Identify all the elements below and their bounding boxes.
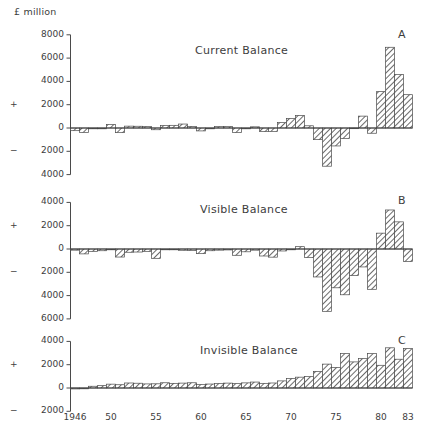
y-tick-label: 4000	[22, 196, 64, 206]
bar	[377, 233, 386, 249]
bar	[179, 124, 188, 128]
y-tick-label: 0	[22, 122, 64, 132]
bar	[350, 362, 359, 388]
bar	[125, 383, 134, 388]
bar	[242, 383, 251, 388]
panel-a-plot	[0, 0, 428, 200]
bar	[296, 115, 305, 128]
bar	[107, 384, 116, 388]
bar	[188, 383, 197, 388]
x-tick-label: 55	[136, 412, 176, 422]
y-tick-label: 6000	[22, 52, 64, 62]
y-tick-label: 4000	[22, 169, 64, 179]
bar	[170, 383, 179, 388]
bar	[395, 222, 404, 249]
x-tick-label: 60	[181, 412, 221, 422]
bar	[287, 378, 296, 388]
bar	[296, 377, 305, 388]
x-tick-label: 75	[316, 412, 356, 422]
y-tick-label: 0	[22, 382, 64, 392]
panel-c-title: Invisible Balance	[200, 344, 298, 357]
minus-sign: −	[10, 145, 18, 155]
y-tick-label: 2000	[22, 99, 64, 109]
bar	[260, 128, 269, 132]
bar	[341, 354, 350, 388]
bar	[269, 383, 278, 388]
bar	[323, 249, 332, 311]
bar	[359, 359, 368, 388]
x-tick-label: 83	[388, 412, 428, 422]
panel-b-title: Visible Balance	[200, 203, 288, 216]
y-tick-label: 2000	[22, 220, 64, 230]
panel-a-letter: A	[398, 28, 406, 41]
bar	[215, 383, 224, 388]
bar	[260, 383, 269, 388]
bar	[368, 128, 377, 133]
bar	[332, 249, 341, 288]
bar	[314, 371, 323, 388]
bar	[377, 92, 386, 128]
bar	[359, 249, 368, 267]
panel-a-title: Current Balance	[195, 44, 288, 57]
bar	[395, 75, 404, 128]
panel-invisible-balance: Invisible Balance C	[0, 330, 428, 441]
bar	[305, 377, 314, 388]
bar	[395, 359, 404, 388]
bar	[152, 249, 161, 258]
bar	[368, 354, 377, 388]
y-tick-label: 0	[22, 243, 64, 253]
bar	[404, 95, 413, 128]
bar	[134, 383, 143, 388]
bar	[179, 383, 188, 388]
y-tick-label: 4000	[22, 335, 64, 345]
y-tick-label: 8000	[22, 29, 64, 39]
bar	[332, 128, 341, 146]
bar	[197, 249, 206, 254]
bar	[161, 383, 170, 388]
bar	[80, 249, 89, 254]
bar	[323, 128, 332, 166]
bar	[341, 128, 350, 138]
y-tick-label: 6000	[22, 313, 64, 323]
bar	[368, 249, 377, 289]
bar	[233, 384, 242, 388]
bar	[359, 116, 368, 128]
x-tick-label: 65	[226, 412, 266, 422]
bar	[377, 365, 386, 388]
y-tick-label: 2000	[22, 405, 64, 415]
y-tick-label: 2000	[22, 145, 64, 155]
panel-b-letter: B	[398, 194, 406, 207]
bar	[116, 249, 125, 257]
plus-sign: +	[10, 220, 18, 230]
minus-sign: −	[10, 405, 18, 415]
bar	[341, 249, 350, 295]
bar	[116, 128, 125, 133]
bar	[269, 128, 278, 131]
bar	[386, 348, 395, 388]
bar	[80, 128, 89, 132]
bar	[287, 118, 296, 128]
bar	[143, 384, 152, 388]
bar	[278, 123, 287, 128]
x-tick-label: 50	[91, 412, 131, 422]
bar	[350, 249, 359, 276]
panel-current-balance: Current Balance A	[0, 0, 428, 200]
bar	[314, 249, 323, 277]
bar	[224, 383, 233, 388]
bar	[323, 364, 332, 388]
bar	[233, 128, 242, 133]
bar	[197, 385, 206, 388]
bar	[107, 125, 116, 128]
bar	[404, 249, 413, 261]
panel-c-letter: C	[398, 334, 406, 347]
bar	[332, 367, 341, 388]
y-tick-label: 4000	[22, 75, 64, 85]
y-tick-label: 2000	[22, 359, 64, 369]
bar	[233, 249, 242, 255]
bar	[314, 128, 323, 140]
minus-sign: −	[10, 266, 18, 276]
x-tick-label: 70	[271, 412, 311, 422]
figure-root: £ million Current Balance A Visible Bala…	[0, 0, 428, 441]
bar	[206, 384, 215, 388]
y-tick-label: 4000	[22, 290, 64, 300]
